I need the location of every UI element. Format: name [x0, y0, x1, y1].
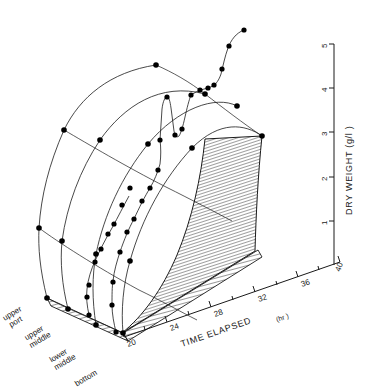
data-point: [155, 167, 160, 172]
data-point: [157, 137, 162, 142]
time-tick-label-4: 36: [300, 277, 312, 289]
depth-label-upper-port: upper port: [1, 304, 28, 330]
data-point: [219, 66, 224, 71]
end-curtain-hatched: [122, 136, 262, 333]
data-point: [117, 249, 122, 254]
dryweight-tick-label-2: 2: [320, 176, 329, 181]
data-point: [188, 92, 193, 97]
data-point: [97, 137, 103, 143]
data-point: [164, 94, 169, 99]
data-point: [234, 103, 240, 109]
time-axis-title: TIME ELAPSED: [179, 315, 252, 349]
data-point: [127, 258, 133, 264]
data-point: [120, 330, 126, 336]
data-point: [205, 85, 210, 90]
data-point: [145, 141, 151, 147]
data-point: [105, 231, 110, 236]
data-point: [36, 225, 42, 231]
depth-label-lower-middle: lower middle: [48, 344, 78, 372]
depth-label-bottom: bottom: [73, 368, 99, 388]
depth-label-upper-middle: upper middle: [23, 322, 53, 350]
isodepth-curve-upper-port: [39, 65, 156, 298]
data-point: [147, 185, 152, 190]
data-point: [179, 126, 184, 131]
data-point: [226, 43, 231, 48]
data-point: [110, 279, 115, 284]
dryweight-tick-label-1: 1: [320, 220, 329, 225]
data-point: [153, 62, 159, 68]
data-point: [84, 294, 89, 299]
dryweight-axis: 5 4 3 2 1 DRY WEIGHT (g/l ): [320, 43, 354, 265]
measured-data-points-lower-middle: [84, 185, 132, 317]
depth-label-bottom-line1: bottom: [73, 368, 99, 388]
data-point: [202, 91, 208, 97]
data-point: [65, 306, 71, 312]
data-point: [241, 27, 246, 32]
data-point: [172, 132, 177, 137]
time-tick-label-0: 20: [126, 337, 138, 349]
dryweight-axis-ticks: [329, 44, 334, 221]
data-point: [189, 145, 195, 151]
data-point: [139, 198, 144, 203]
data-point: [124, 229, 129, 234]
data-point: [197, 87, 202, 92]
dry-weight-3d-surface-figure: 20 24 28 32 36 40 TIME ELAPSED (hr ) 5 4…: [0, 0, 371, 389]
data-point: [113, 329, 118, 334]
data-point: [86, 282, 91, 287]
data-point: [93, 322, 99, 328]
data-point: [86, 312, 91, 317]
data-point: [131, 216, 136, 221]
data-point: [44, 295, 50, 301]
time-axis-unit: (hr ): [275, 312, 290, 324]
time-tick-label-1: 24: [169, 321, 181, 333]
data-point: [111, 221, 116, 226]
data-point: [119, 202, 124, 207]
dryweight-tick-label-4: 4: [320, 87, 329, 92]
surface-end-curtain: [122, 136, 262, 333]
time-tick-label-5: 40: [333, 261, 345, 273]
data-point: [93, 251, 99, 257]
dryweight-tick-label-5: 5: [320, 43, 329, 48]
data-point: [61, 127, 67, 133]
time-tick-label-2: 28: [213, 307, 225, 319]
data-point: [92, 259, 97, 264]
time-tick-label-3: 32: [257, 292, 269, 304]
data-point: [211, 82, 216, 87]
data-point: [98, 246, 103, 251]
data-point: [127, 185, 132, 190]
measured-data-curve-lower-middle: [84, 185, 132, 317]
dryweight-tick-label-3: 3: [320, 131, 329, 136]
data-point: [259, 133, 265, 139]
isotime-curve-32hr: [156, 65, 262, 136]
data-point: [109, 302, 114, 307]
data-point: [59, 238, 65, 244]
dryweight-axis-title: DRY WEIGHT (g/l ): [344, 126, 354, 215]
